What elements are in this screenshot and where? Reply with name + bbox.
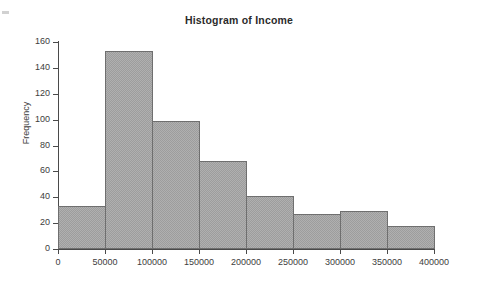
- histogram-bar: [58, 206, 106, 249]
- histogram-chart: Histogram of Income Frequency 0204060801…: [0, 0, 478, 283]
- x-tick-mark: [152, 249, 153, 254]
- histogram-bar: [152, 121, 200, 249]
- x-tick-mark: [105, 249, 106, 254]
- x-tick-mark: [199, 249, 200, 254]
- histogram-bar: [199, 161, 247, 249]
- y-tick-label: 40: [8, 192, 50, 201]
- x-tick-mark: [246, 249, 247, 254]
- histogram-bar: [246, 196, 294, 249]
- y-tick-label: 140: [8, 63, 50, 72]
- x-tick-mark: [387, 249, 388, 254]
- histogram-bar: [293, 214, 341, 249]
- histogram-bar: [340, 211, 388, 249]
- y-tick-label: 80: [8, 141, 50, 150]
- y-tick-label: 0: [8, 244, 50, 253]
- y-tick-label: 100: [8, 115, 50, 124]
- y-tick-label: 120: [8, 89, 50, 98]
- histogram-bar: [387, 226, 435, 249]
- y-tick-label: 20: [8, 218, 50, 227]
- x-tick-label: 400000: [399, 257, 469, 267]
- y-tick-label: 160: [8, 37, 50, 46]
- x-tick-mark: [58, 249, 59, 254]
- x-tick-mark: [293, 249, 294, 254]
- y-tick-label: 60: [8, 166, 50, 175]
- histogram-bar: [105, 51, 153, 249]
- chart-title: Histogram of Income: [0, 14, 478, 26]
- plot-area: [58, 42, 434, 249]
- x-tick-mark: [340, 249, 341, 254]
- x-tick-mark: [434, 249, 435, 254]
